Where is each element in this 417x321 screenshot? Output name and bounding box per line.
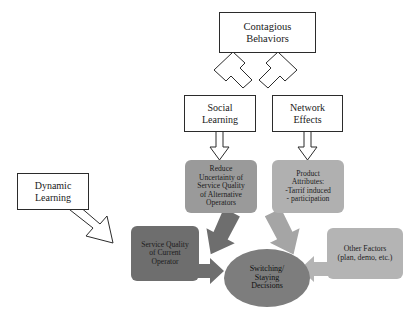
node-service-quality-current-operator: Service Quality of Current Operator — [131, 226, 199, 281]
node-product-attributes-label: Product Attributes: -Tarrif induced - pa… — [272, 170, 344, 204]
text-line: Learning — [187, 114, 253, 125]
node-social-learning: Social Learning — [184, 95, 256, 132]
text-line: - participation — [274, 195, 342, 204]
node-dynamic-learning: Dynamic Learning — [17, 173, 89, 210]
node-dynamic-learning-label: Dynamic Learning — [18, 180, 88, 202]
arrow-contagious-to-social — [214, 52, 252, 88]
text-line: Social — [187, 102, 253, 113]
node-social-learning-label: Social Learning — [185, 102, 255, 124]
arrow-service-to-decisions — [196, 258, 224, 284]
diagram-canvas: Contagious Behaviors Social Learning Net… — [0, 0, 417, 321]
node-service-quality-label: Service Quality of Current Operator — [131, 241, 199, 267]
node-product-attributes: Product Attributes: -Tarrif induced - pa… — [272, 160, 344, 213]
node-switching-staying-decisions: Switching/ Staying Decisions — [224, 249, 310, 307]
arrow-network-to-product — [298, 131, 317, 160]
node-reduce-uncertainty-label: Reduce Uncertainty of Service Quality of… — [185, 165, 257, 208]
text-line: Learning — [20, 192, 86, 203]
node-network-effects-label: Network Effects — [273, 102, 342, 124]
text-line: Decisions — [226, 282, 308, 291]
node-switching-staying-decisions-label: Switching/ Staying Decisions — [224, 265, 310, 292]
text-line: Effects — [275, 114, 340, 125]
text-line: Operators — [187, 199, 255, 208]
text-line: Behaviors — [222, 33, 313, 45]
text-line: Dynamic — [20, 180, 86, 191]
arrow-reduce-to-decisions — [197, 205, 247, 262]
node-contagious-behaviors-label: Contagious Behaviors — [220, 21, 315, 45]
text-line: Operator — [133, 258, 197, 267]
node-other-factors: Other Factors (plan, demo, etc.) — [327, 228, 403, 279]
text-line: Contagious — [222, 21, 313, 33]
arrow-contagious-to-network — [259, 52, 297, 88]
node-other-factors-label: Other Factors (plan, demo, etc.) — [327, 245, 403, 262]
node-reduce-uncertainty: Reduce Uncertainty of Service Quality of… — [185, 160, 257, 213]
text-line: Network — [275, 102, 340, 113]
node-contagious-behaviors: Contagious Behaviors — [219, 12, 316, 53]
text-line: (plan, demo, etc.) — [329, 254, 401, 263]
node-network-effects: Network Effects — [272, 95, 343, 132]
arrow-social-to-reduce — [210, 131, 229, 160]
